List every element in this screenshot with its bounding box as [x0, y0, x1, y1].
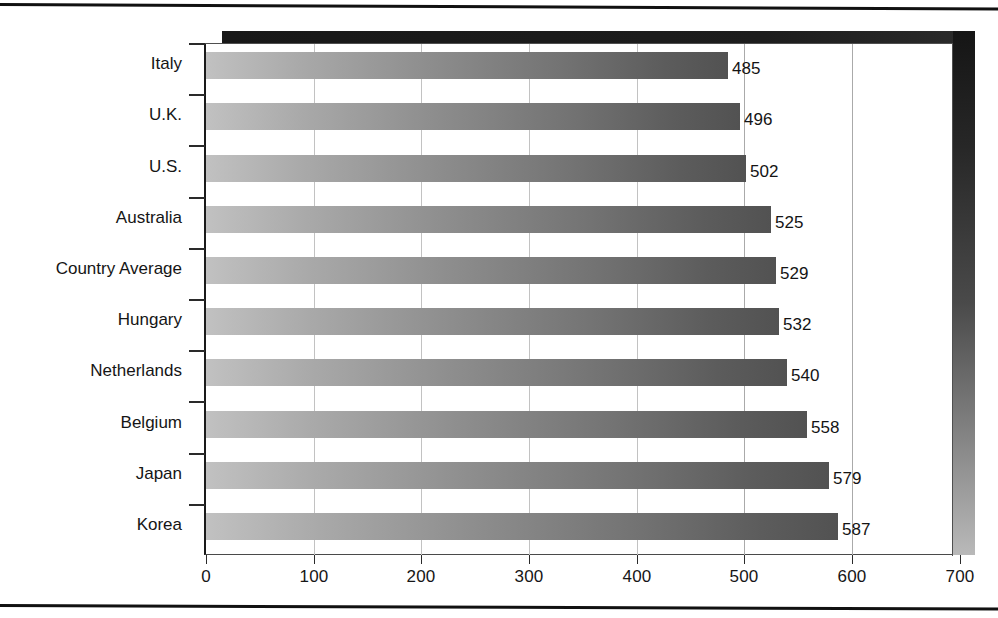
- y-axis-tick: [189, 350, 205, 352]
- y-axis-tick-top: [189, 43, 205, 45]
- y-axis-label-wrap: U.K.: [0, 105, 182, 129]
- y-axis-label-hungary: Hungary: [2, 310, 182, 330]
- y-axis-tick: [189, 299, 205, 301]
- bar: [206, 257, 776, 284]
- y-axis-tick: [189, 197, 205, 199]
- bar-value-label: 529: [780, 265, 808, 282]
- bar: [206, 411, 807, 438]
- plot-top-edge: [204, 43, 953, 44]
- y-axis-label-country-average: Country Average: [2, 259, 182, 279]
- bar: [206, 308, 779, 335]
- bar: [206, 206, 771, 233]
- y-axis-tick: [189, 94, 205, 96]
- y-axis-label-wrap: Belgium: [0, 413, 182, 437]
- y-axis-label-wrap: Hungary: [0, 310, 182, 334]
- plot-right-edge: [952, 43, 953, 556]
- x-axis-label-100: 100: [284, 567, 344, 587]
- y-axis-tick: [189, 504, 205, 506]
- x-axis-label-600: 600: [822, 567, 882, 587]
- x-axis-tick-600: [852, 555, 853, 564]
- y-axis-label-italy: Italy: [2, 54, 182, 74]
- x-axis-label-700: 700: [930, 567, 990, 587]
- y-axis-tick: [189, 401, 205, 403]
- bar: [206, 359, 787, 386]
- x-axis-tick-200: [421, 555, 422, 564]
- bar-value-label: 502: [750, 163, 778, 180]
- y-axis-label-wrap: Korea: [0, 515, 182, 539]
- plot-shadow-right: [953, 31, 975, 555]
- x-axis-label-500: 500: [714, 567, 774, 587]
- bar: [206, 155, 746, 182]
- y-axis-label-wrap: Italy: [0, 54, 182, 78]
- bar: [206, 462, 829, 489]
- y-axis-tick: [189, 453, 205, 455]
- bar: [206, 52, 728, 79]
- y-axis-label-wrap: Japan: [0, 464, 182, 488]
- x-axis-tick-700: [960, 555, 961, 564]
- y-axis-label-belgium: Belgium: [2, 413, 182, 433]
- horizontal-bar-chart: 485496502525529532540558579587 ItalyU.K.…: [0, 0, 998, 618]
- y-axis-label-u-s: U.S.: [2, 157, 182, 177]
- page-canvas: 485496502525529532540558579587 ItalyU.K.…: [0, 0, 998, 618]
- x-axis-tick-400: [637, 555, 638, 564]
- y-axis-label-wrap: Australia: [0, 208, 182, 232]
- y-axis-label-wrap: U.S.: [0, 157, 182, 181]
- y-axis-tick: [189, 248, 205, 250]
- y-axis-label-u-k: U.K.: [2, 105, 182, 125]
- bar-value-label: 525: [775, 214, 803, 231]
- x-axis-tick-500: [744, 555, 745, 564]
- bar-value-label: 587: [842, 521, 870, 538]
- y-axis-label-netherlands: Netherlands: [2, 361, 182, 381]
- bar-value-label: 485: [732, 60, 760, 77]
- bar: [206, 103, 740, 130]
- x-axis-label-300: 300: [499, 567, 559, 587]
- x-axis-label-400: 400: [607, 567, 667, 587]
- x-axis-tick-100: [314, 555, 315, 564]
- y-axis-label-australia: Australia: [2, 208, 182, 228]
- bar: [206, 513, 838, 540]
- bar-value-label: 540: [791, 367, 819, 384]
- bar-value-label: 496: [744, 111, 772, 128]
- y-axis-tick: [189, 145, 205, 147]
- x-axis-label-0: 0: [176, 567, 236, 587]
- x-axis-tick-0: [206, 555, 207, 564]
- bar-value-label: 532: [783, 316, 811, 333]
- bar-value-label: 558: [811, 419, 839, 436]
- bar-value-label: 579: [833, 470, 861, 487]
- x-axis-tick-300: [529, 555, 530, 564]
- y-axis-label-wrap: Netherlands: [0, 361, 182, 385]
- y-axis-label-wrap: Country Average: [0, 259, 182, 283]
- y-axis-label-korea: Korea: [2, 515, 182, 535]
- x-axis-label-200: 200: [391, 567, 451, 587]
- y-axis-label-japan: Japan: [2, 464, 182, 484]
